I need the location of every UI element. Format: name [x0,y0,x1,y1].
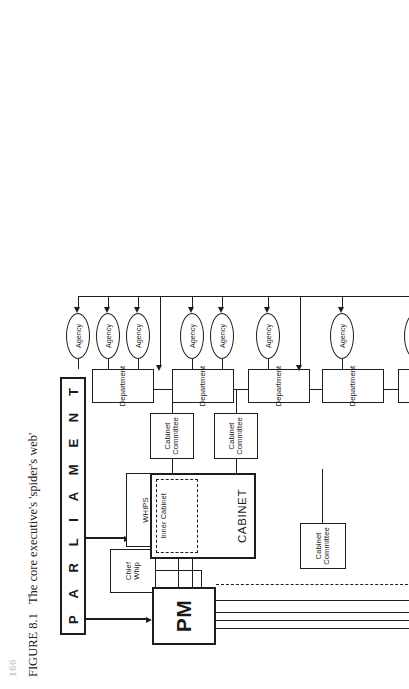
connector-pm-cabinet-b [192,559,193,587]
inner-cabinet-box: Inner Cabinet [156,479,198,553]
connector-dept-spine-1 [154,389,172,390]
agency-label: Agency [134,324,143,348]
cabinet-committee-label: Cabinet Committee [164,416,181,456]
oversight-bus [78,296,409,297]
arrowhead-oversight [134,307,140,313]
department-box: Department [322,369,384,403]
parliament-letter: M [67,464,80,475]
department-box: Department [172,369,234,403]
parliament-letter: R [67,563,80,572]
connector-cabinet-cc2 [236,459,237,473]
connector-cc3-dept [322,469,323,523]
cabinet-committee-box: Cabinet Committee [300,523,346,569]
connector-pm-units-c [216,612,409,613]
connector-dept-spine-4 [384,389,398,390]
agency-label: Agency [104,324,113,348]
parliament-box: P A R L I A M E N T [60,377,86,635]
agency-label: Agency [188,324,197,348]
parliament-letter: A [67,589,80,598]
arrowhead-oversight [188,307,194,313]
agency-oval: Agency [210,313,234,359]
arrowhead-oversight-dept [296,365,302,371]
figure-caption-text: The core executive's 'spider's web' [26,433,40,604]
oversight-branch [268,297,269,307]
agency-label: Agency [74,324,83,348]
connector-dept-agency [268,359,269,369]
inner-cabinet-label: Inner Cabinet [157,492,168,540]
connector-dept-agency [138,359,139,369]
connector-dept-spine-2 [234,389,248,390]
department-box: Department [92,369,154,403]
arrowhead-oversight [74,307,80,313]
connector-dept-agency [222,359,223,369]
connector-dept-agency [342,359,343,369]
arrowhead-oversight [104,307,110,313]
agency-oval: Agency [66,313,90,359]
oversight-branch [78,297,79,307]
cabinet-committee-box: Cabinet Committee [214,413,258,459]
cabinet-committee-label: Cabinet Committee [315,526,332,566]
department-label: Department [275,365,284,408]
connector-pm-adhoc [216,600,409,601]
arrowhead-oversight [218,307,224,313]
department-box: Department [248,369,310,403]
connector-cc2-dept [236,389,237,413]
arrowhead-oversight [264,307,270,313]
arrowhead-oversight-dept [156,365,162,371]
chief-whip-label: Chief Whip [125,561,142,581]
agency-oval: Agency [126,313,150,359]
oversight-branch [138,297,139,307]
cabinet-committee-box: Cabinet Committee [150,413,194,459]
figure-sheet: 166 FIGURE 8.1The core executive's 'spid… [0,0,409,689]
parliament-letter: T [67,388,80,396]
oversight-dept-branch [300,297,301,367]
parliament-letter: E [67,439,80,448]
figure-number: FIGURE 8.1 [26,613,40,677]
parliament-letter: P [67,615,80,624]
agency-oval: Agency [330,313,354,359]
department-label: Department [119,365,128,408]
parliament-letter: L [67,538,80,546]
connector-cabinet-cc1 [172,459,173,473]
agency-oval: Agency [96,313,120,359]
rotated-figure-stage: 166 FIGURE 8.1The core executive's 'spid… [0,0,409,689]
connector-pm-units-b [216,620,409,621]
connector-pm-units-a [216,628,409,629]
connector-parliament-pm [86,618,148,620]
oversight-branch [222,297,223,307]
oversight-branch [342,297,343,307]
department-box: Department [398,369,409,403]
pm-label: PM [172,599,196,634]
cabinet-committee-label: Cabinet Committee [228,416,245,456]
pm-box: PM [152,587,216,645]
figure-caption: FIGURE 8.1The core executive's 'spider's… [26,433,41,677]
connector-pm-cabinet-a [178,559,179,587]
page-number: 166 [6,659,18,677]
oversight-branch [192,297,193,307]
agency-oval: Agency [180,313,204,359]
parliament-letter: N [67,413,80,422]
agency-oval: Agency [256,313,280,359]
direct-access-dashed-v [216,584,409,585]
agency-label: Agency [338,324,347,348]
parliament-letter: A [67,492,80,501]
connector-dept-agency [78,359,79,369]
oversight-branch [108,297,109,307]
department-label: Department [349,365,358,408]
connector-parliament-whips [86,537,126,539]
arrowhead-oversight [338,307,344,313]
connector-dept-agency [108,359,109,369]
agency-label: Agency [264,324,273,348]
agency-label: Agency [218,324,227,348]
parliament-letter: I [67,518,80,522]
cabinet-label: CABINET [236,488,254,544]
connector-dept-spine-3 [310,389,322,390]
oversight-dept-branch [160,297,161,367]
connector-dept-agency [192,359,193,369]
department-label: Department [199,365,208,408]
agency-oval: Agency [404,313,409,359]
